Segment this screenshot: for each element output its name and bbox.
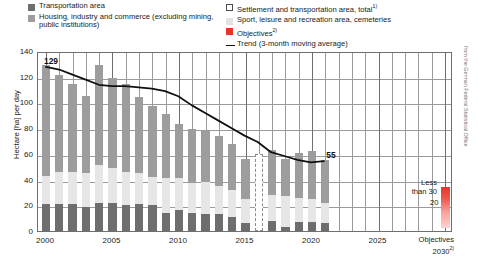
trend-line-series bbox=[38, 53, 451, 231]
legend-column-right: Settlement and transportation area, tota… bbox=[226, 2, 466, 50]
objective-less-line1: Less bbox=[421, 178, 437, 187]
y-tick-0: 0 bbox=[11, 227, 33, 236]
legend-item-settlement-total: Settlement and transportation area, tota… bbox=[226, 2, 466, 14]
legend-item-sport: Sport, leisure and recreation area, ceme… bbox=[226, 16, 466, 25]
legend-note-objectives: 2) bbox=[272, 27, 277, 33]
legend-label-trend: Trend (3-month moving average) bbox=[237, 40, 348, 49]
data-label-first: 129 bbox=[44, 56, 58, 66]
legend-label-objectives: Objectives bbox=[237, 29, 272, 38]
legend-item-objectives: Objectives2) bbox=[226, 26, 466, 38]
objective-2030-marker bbox=[441, 187, 450, 228]
objectives-x-line2: 2030 bbox=[432, 247, 449, 256]
x-tick-2005: 2005 bbox=[97, 236, 125, 245]
chart-legend: Transportation area Housing, industry an… bbox=[0, 0, 478, 46]
legend-column-left: Transportation area Housing, industry an… bbox=[28, 2, 223, 31]
plot-area: 129 55 Less than 30 20 bbox=[37, 52, 452, 232]
sport-swatch-icon bbox=[226, 18, 233, 25]
x-axis-objectives-label: Objectives 20302) bbox=[400, 235, 454, 256]
y-tick-120: 120 bbox=[11, 73, 33, 82]
legend-item-transportation: Transportation area bbox=[28, 2, 223, 11]
x-tick-2025: 2025 bbox=[364, 236, 392, 245]
y-tick-40: 40 bbox=[11, 176, 33, 185]
source-credit: from the German Federal Statistical Offi… bbox=[463, 46, 469, 56]
y-tick-100: 100 bbox=[11, 98, 33, 107]
objective-less-line2: than 30 bbox=[412, 187, 437, 196]
y-tick-20: 20 bbox=[11, 201, 33, 210]
y-tick-60: 60 bbox=[11, 150, 33, 159]
data-label-last: 55 bbox=[326, 150, 335, 160]
x-tick-2000: 2000 bbox=[31, 236, 59, 245]
legend-label-transportation: Transportation area bbox=[39, 2, 105, 11]
objective-less-than-label: Less than 30 bbox=[387, 178, 437, 196]
x-tick-2010: 2010 bbox=[164, 236, 192, 245]
settlement-total-swatch-icon bbox=[226, 4, 233, 11]
objectives-x-note: 2) bbox=[449, 245, 454, 251]
legend-item-housing: Housing, industry and commerce (excludin… bbox=[28, 13, 223, 30]
trend-line-swatch-icon bbox=[226, 42, 235, 49]
y-tick-80: 80 bbox=[11, 124, 33, 133]
legend-label-settlement-total: Settlement and transportation area, tota… bbox=[237, 5, 373, 14]
objective-value-label: 20 bbox=[430, 198, 438, 207]
legend-item-trend: Trend (3-month moving average) bbox=[226, 40, 466, 49]
y-tick-140: 140 bbox=[11, 47, 33, 56]
objectives-swatch-icon bbox=[226, 28, 233, 35]
x-tick-2020: 2020 bbox=[297, 236, 325, 245]
legend-label-housing: Housing, industry and commerce (excludin… bbox=[39, 13, 223, 30]
legend-label-sport: Sport, leisure and recreation area, ceme… bbox=[237, 16, 391, 25]
housing-swatch-icon bbox=[28, 15, 35, 22]
transportation-swatch-icon bbox=[28, 4, 35, 11]
objectives-x-line1: Objectives bbox=[419, 235, 454, 244]
x-tick-2015: 2015 bbox=[231, 236, 259, 245]
legend-note-settlement-total: 1) bbox=[373, 3, 378, 9]
